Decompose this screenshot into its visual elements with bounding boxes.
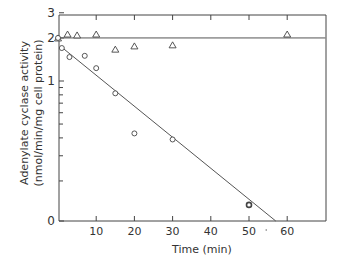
x-tick-label: 50 bbox=[242, 225, 256, 238]
x-tick-label: 40 bbox=[204, 225, 218, 238]
x-tick-label: 30 bbox=[166, 225, 180, 238]
circle-marker bbox=[94, 66, 99, 71]
triangle-marker bbox=[93, 31, 100, 37]
triangle-marker bbox=[284, 31, 291, 37]
triangle-marker bbox=[112, 46, 119, 52]
circle-marker bbox=[170, 137, 175, 142]
axis-mark bbox=[265, 229, 266, 230]
x-axis-title: Time (min) bbox=[172, 243, 232, 256]
triangle-marker bbox=[74, 32, 81, 38]
circle-marker bbox=[132, 131, 137, 136]
circle-marker bbox=[247, 202, 252, 207]
y-axis-title-line1: Adenylate cyclase activity bbox=[18, 39, 32, 186]
circle-marker bbox=[82, 53, 87, 58]
triangle-marker bbox=[64, 31, 71, 37]
x-tick-label: 20 bbox=[127, 225, 141, 238]
decay-fit-line bbox=[62, 47, 276, 221]
circle-marker bbox=[113, 91, 118, 96]
triangle-marker bbox=[169, 42, 176, 48]
y-axis-title-line2: (nmol/min/mg cell protein) bbox=[32, 39, 46, 186]
y-axis-title: Adenylate cyclase activity (nmol/min/mg … bbox=[2, 0, 62, 225]
circle-marker bbox=[67, 55, 72, 60]
triangle-marker bbox=[131, 43, 138, 49]
x-tick-label: 60 bbox=[280, 225, 294, 238]
x-tick-label: 10 bbox=[89, 225, 103, 238]
